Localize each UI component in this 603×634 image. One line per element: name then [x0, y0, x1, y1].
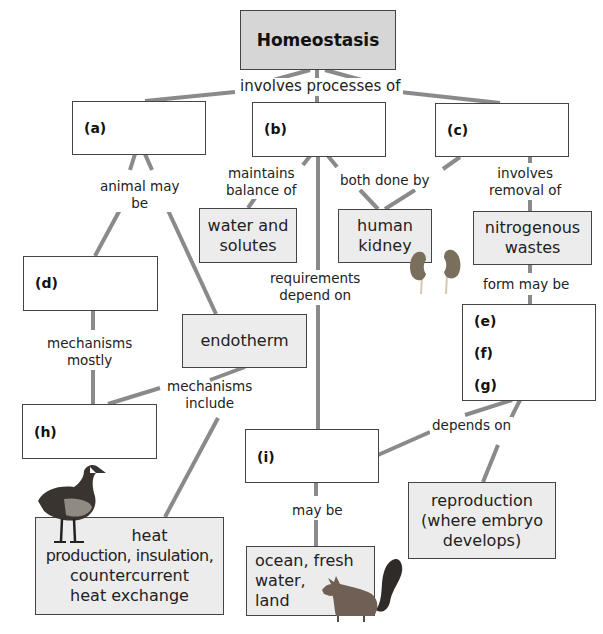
heat-line4: heat exchange [70, 586, 189, 606]
animal-line1: animal may [100, 178, 179, 195]
water-solutes-node: water and solutes [199, 208, 297, 263]
heat-line3: countercurrent [70, 566, 189, 586]
nitro-line2: wastes [505, 238, 561, 258]
link-involves-processes: involves processes of [238, 78, 403, 95]
removal-line1: involves [489, 165, 561, 182]
water-line2: solutes [219, 236, 276, 256]
squirrel-icon [318, 548, 406, 624]
node-b-label: (b) [264, 121, 287, 137]
node-h-label: (h) [34, 424, 57, 440]
node-d: (d) [23, 256, 158, 311]
link-maintains-balance: maintains balance of [224, 165, 298, 199]
node-a-label: (a) [84, 120, 106, 136]
node-c: (c) [435, 103, 569, 157]
repro-line2: (where embryo [421, 511, 543, 531]
maintains-line2: balance of [226, 182, 296, 199]
kidney-icon [408, 248, 464, 294]
node-a: (a) [72, 101, 206, 155]
node-b: (b) [252, 102, 386, 157]
include-line2: include [167, 395, 252, 412]
homeostasis-label: Homeostasis [241, 30, 395, 50]
include-line1: mechanisms [167, 378, 252, 395]
node-f-label: (f) [474, 345, 493, 361]
removal-line2: removal of [489, 182, 561, 199]
heat-line2: production, insulation, [46, 546, 214, 566]
water-line1: water and [208, 216, 289, 236]
node-i-label: (i) [257, 449, 275, 465]
maintains-line1: maintains [226, 165, 296, 182]
link-animal-may-be: animal may be [98, 178, 181, 212]
node-e-label: (e) [474, 313, 496, 329]
repro-line3: develops) [443, 531, 521, 551]
node-c-label: (c) [447, 122, 468, 138]
node-h: (h) [22, 404, 157, 459]
kidney-line1: human [357, 216, 413, 236]
kidney-line2: kidney [358, 236, 411, 256]
node-efg: (e) (f) (g) [462, 304, 596, 401]
animal-line2: be [100, 195, 179, 212]
mostly-line2: mostly [47, 352, 132, 369]
link-involves-removal: involves removal of [487, 165, 563, 199]
endotherm-label: endotherm [200, 331, 288, 351]
link-both-done-by: both done by [338, 172, 432, 189]
node-d-label: (d) [35, 275, 58, 291]
node-g-label: (g) [474, 377, 497, 393]
reproduction-node: reproduction (where embryo develops) [408, 482, 556, 559]
homeostasis-node: Homeostasis [240, 10, 396, 70]
repro-line1: reproduction [431, 491, 533, 511]
link-form-may-be: form may be [481, 276, 571, 293]
link-requirements-depend: requirements depend on [268, 270, 362, 304]
link-depends-on: depends on [430, 417, 513, 434]
nitrogenous-wastes-node: nitrogenous wastes [473, 211, 592, 265]
link-may-be: may be [290, 502, 345, 519]
goose-icon [34, 463, 124, 543]
link-mechanisms-mostly: mechanisms mostly [45, 335, 134, 369]
link-mechanisms-include: mechanisms include [165, 378, 254, 412]
mostly-line1: mechanisms [47, 335, 132, 352]
requirements-line1: requirements [270, 270, 360, 287]
requirements-line2: depend on [270, 287, 360, 304]
node-i: (i) [245, 429, 379, 483]
endotherm-node: endotherm [182, 314, 307, 368]
nitro-line1: nitrogenous [485, 218, 580, 238]
